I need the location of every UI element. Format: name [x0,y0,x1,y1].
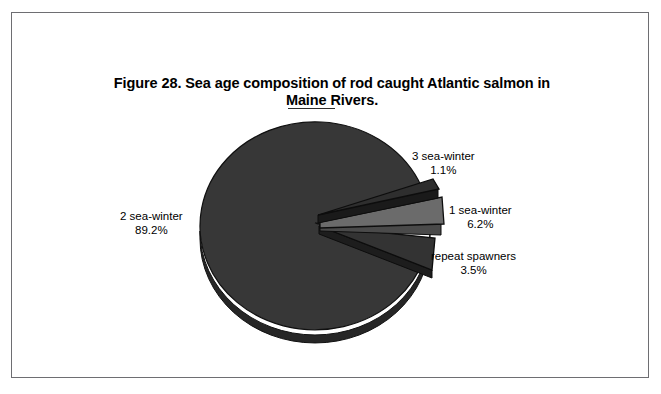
pie-label-3-sea-winter: 3 sea-winter 1.1% [412,149,475,177]
pie-label-3-sea-winter-percent: 1.1% [412,163,475,177]
pie-label-2-sea-winter: 2 sea-winter 89.2% [120,209,183,237]
chart-title-line-1: Figure 28. Sea age composition of rod ca… [114,75,550,91]
pie-label-1-sea-winter: 1 sea-winter 6.2% [449,203,512,231]
pie-label-3-sea-winter-name: 3 sea-winter [412,150,475,162]
pie-label-repeat-spawners-percent: 3.5% [431,263,516,277]
chart-title-line-2: Maine Rivers. [286,92,378,109]
pie-label-2-sea-winter-percent: 89.2% [120,223,183,237]
pie-label-1-sea-winter-percent: 6.2% [449,217,512,231]
figure-frame: Figure 28. Sea age composition of rod ca… [11,12,649,378]
pie-label-repeat-spawners: repeat spawners 3.5% [431,249,516,277]
pie-label-repeat-spawners-name: repeat spawners [431,250,516,262]
pie-label-1-sea-winter-name: 1 sea-winter [449,204,512,216]
chart-title: Figure 28. Sea age composition of rod ca… [72,75,592,109]
pie-label-2-sea-winter-name: 2 sea-winter [120,210,183,222]
